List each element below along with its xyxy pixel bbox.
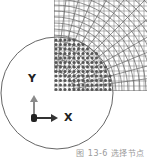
- x-axis-label: X: [64, 111, 72, 124]
- mesh-figure: [0, 0, 147, 159]
- figure-caption: 图 13-6 选择节点: [76, 147, 145, 158]
- origin-marker: [31, 114, 37, 122]
- axis-triad: [30, 95, 58, 122]
- y-arrowhead-icon: [30, 95, 38, 102]
- x-arrowhead-icon: [51, 114, 58, 122]
- y-axis-label: Y: [28, 72, 36, 85]
